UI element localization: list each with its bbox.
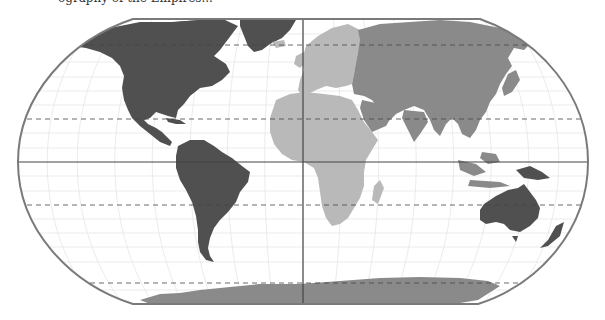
world-map <box>0 0 605 320</box>
